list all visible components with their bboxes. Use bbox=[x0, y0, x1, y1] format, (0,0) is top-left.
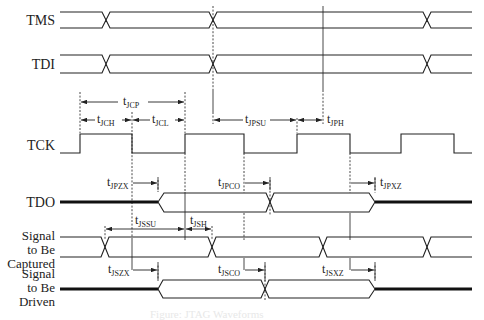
tms-label: TMS bbox=[26, 13, 55, 28]
tdi-waveform bbox=[60, 55, 472, 73]
tms-waveform bbox=[60, 12, 472, 28]
figure-caption: Figure: JTAG Waveforms bbox=[150, 308, 264, 320]
svg-text:tJPH: tJPH bbox=[327, 112, 344, 128]
tdo-waveform bbox=[60, 193, 472, 212]
dim-tjch: tJCH bbox=[81, 112, 131, 128]
svg-text:to Be: to Be bbox=[27, 242, 55, 257]
svg-text:tJSSU: tJSSU bbox=[135, 213, 156, 229]
captured-waveform bbox=[60, 237, 472, 257]
dim-tjsco: tJSCO bbox=[218, 262, 265, 281]
captured-label: Signal to Be Captured bbox=[7, 228, 55, 271]
svg-text:tJSXZ: tJSXZ bbox=[322, 262, 344, 278]
tdi-label: TDI bbox=[32, 57, 56, 72]
tdo-label: TDO bbox=[26, 195, 55, 210]
svg-text:tJPSU: tJPSU bbox=[245, 112, 266, 128]
dim-tjssu: tJSSU bbox=[106, 213, 184, 229]
svg-text:tJPZX: tJPZX bbox=[107, 175, 129, 191]
tck-label: TCK bbox=[27, 138, 55, 153]
svg-text:Driven: Driven bbox=[19, 294, 56, 309]
svg-text:tJPCO: tJPCO bbox=[218, 175, 240, 191]
dim-tjsxz: tJSXZ bbox=[322, 262, 375, 281]
dim-tjpsu: tJPSU bbox=[214, 112, 296, 128]
dim-tjcp: tJCP bbox=[81, 94, 184, 110]
driven-waveform bbox=[60, 280, 472, 298]
dim-tjph: tJPH bbox=[298, 112, 344, 128]
dim-tjszx: tJSZX bbox=[108, 262, 158, 281]
guide-lines bbox=[80, 6, 375, 300]
dim-tjpxz: tJPXZ bbox=[351, 175, 402, 191]
tck-waveform bbox=[60, 134, 472, 153]
jtag-timing-diagram: TMS TDI TCK TDO Signal to Be Captured Si… bbox=[0, 0, 484, 320]
svg-text:tJCH: tJCH bbox=[97, 112, 115, 128]
svg-text:tJPXZ: tJPXZ bbox=[380, 175, 402, 191]
svg-text:tJCP: tJCP bbox=[123, 94, 140, 110]
driven-label: Signal to Be Driven bbox=[19, 266, 56, 309]
dim-tjpzx: tJPZX bbox=[107, 175, 158, 191]
svg-text:tJSCO: tJSCO bbox=[218, 262, 240, 278]
svg-text:Signal: Signal bbox=[22, 266, 56, 281]
svg-text:Signal: Signal bbox=[22, 228, 56, 243]
svg-text:tJSZX: tJSZX bbox=[108, 262, 130, 278]
svg-text:to Be: to Be bbox=[27, 280, 55, 295]
svg-text:tJSH: tJSH bbox=[190, 213, 207, 229]
svg-text:tJCL: tJCL bbox=[152, 112, 169, 128]
dim-tjsh: tJSH bbox=[186, 213, 211, 229]
dim-tjcl: tJCL bbox=[133, 112, 184, 128]
